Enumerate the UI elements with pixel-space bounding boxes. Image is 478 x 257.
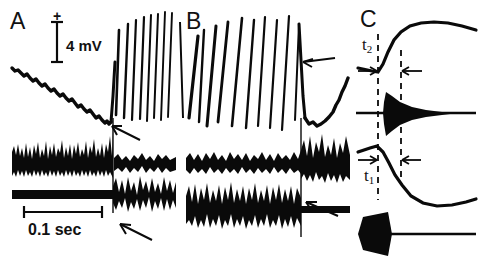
arrow-a-emg bbox=[120, 224, 152, 240]
trace-b-recovery bbox=[305, 78, 348, 126]
trace-c-rise-curve bbox=[358, 22, 476, 72]
arrow-a-intracellular bbox=[112, 126, 140, 140]
trace-b-spike-edge bbox=[180, 22, 183, 118]
trace-b-repolarization bbox=[299, 24, 305, 118]
trace-b-emg-lower bbox=[186, 182, 350, 229]
interval-arrows-t2 bbox=[358, 67, 422, 75]
panel-c-group bbox=[356, 22, 476, 256]
trace-a-upstroke bbox=[111, 62, 115, 122]
burst-envelope-block bbox=[358, 212, 392, 256]
trace-a-intracellular bbox=[12, 68, 111, 124]
voltage-scale-bar bbox=[51, 22, 63, 62]
figure-root: A B C + 4 mV 0.1 sec t2 t1 bbox=[0, 0, 478, 257]
panel-b-group bbox=[180, 16, 350, 237]
arrow-b-intracellular bbox=[303, 58, 335, 67]
trace-c-fall-curve bbox=[358, 146, 476, 206]
traces-layer bbox=[0, 0, 478, 257]
trace-b-spike-train bbox=[189, 16, 299, 130]
trace-a-emg-upper bbox=[12, 132, 176, 178]
burst-envelope-decay bbox=[383, 92, 458, 136]
time-scale-bar bbox=[24, 206, 102, 218]
trace-b-emg-upper bbox=[186, 134, 350, 183]
trace-a-spike-burst bbox=[116, 12, 172, 121]
trace-a-emg-lower bbox=[12, 176, 176, 212]
panel-a-group bbox=[12, 12, 176, 240]
